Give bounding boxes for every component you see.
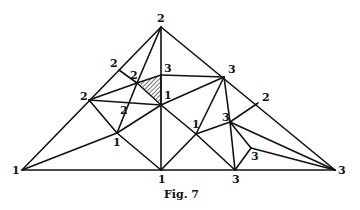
label-left-2: 2	[80, 90, 88, 103]
triangulation-diagram: 2 1 3 1 3 2 2 2 3 1 3 2 3 1 1 3 2 Fig. 7	[0, 0, 360, 210]
label-right: 3	[338, 164, 346, 177]
figure-caption: Fig. 7	[164, 188, 199, 201]
label-center-1: 1	[164, 89, 172, 102]
label-small-3: 3	[251, 150, 259, 163]
label-edge-2: 2	[110, 57, 118, 70]
label-left: 1	[12, 164, 20, 177]
label-mid-3: 3	[222, 111, 230, 124]
label-lower-1: 1	[113, 136, 121, 149]
label-right-center-1: 1	[192, 118, 200, 131]
edges	[22, 27, 335, 170]
label-right-2: 2	[262, 91, 270, 104]
shaded-triangle	[137, 75, 161, 105]
label-right-3: 3	[228, 63, 236, 76]
label-inner-2: 2	[130, 69, 138, 82]
label-bottom-3: 3	[232, 173, 240, 186]
label-inner-3: 3	[164, 62, 172, 75]
label-top: 2	[157, 12, 165, 25]
label-edge-mid-2: 2	[120, 104, 128, 117]
label-bottom-mid: 1	[158, 173, 166, 186]
